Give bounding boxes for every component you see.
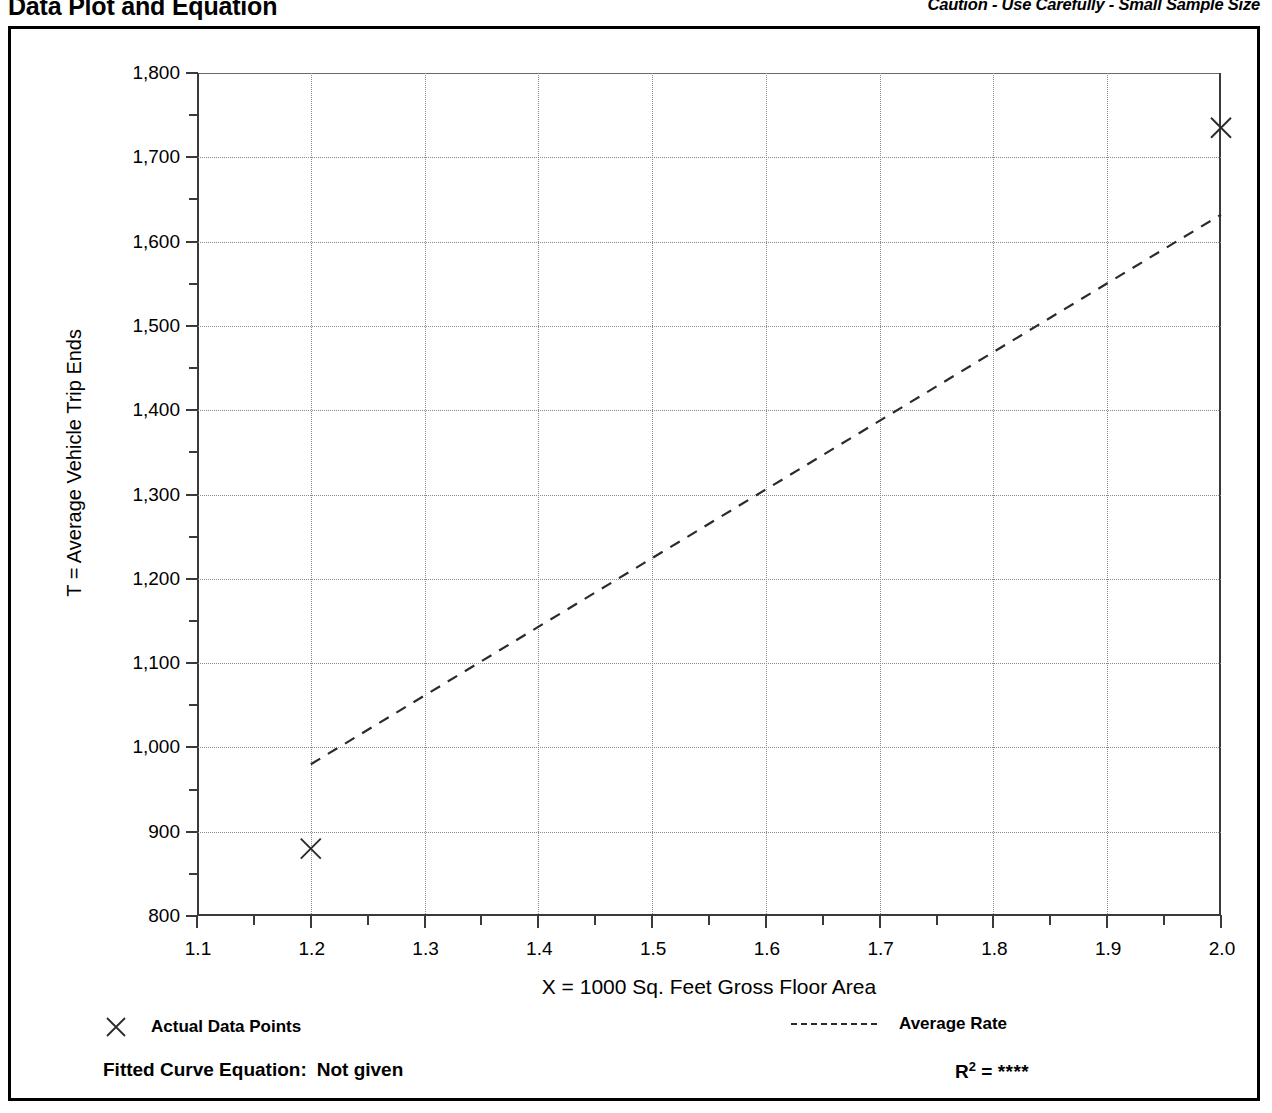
- x-axis-minor-tick: [253, 915, 255, 925]
- x-axis-tick: [992, 915, 994, 928]
- y-axis-tick-label: 1,600: [102, 231, 180, 253]
- y-axis-minor-tick: [189, 114, 198, 116]
- y-axis-tick: [186, 746, 198, 748]
- y-axis-title: T = Average Vehicle Trip Ends: [63, 329, 86, 597]
- y-axis-tick: [186, 156, 198, 158]
- plot-area: 8009001,0001,1001,2001,3001,4001,5001,60…: [197, 73, 1221, 916]
- x-axis-tick-label: 2.0: [1187, 938, 1257, 960]
- x-axis-tick: [310, 915, 312, 928]
- x-axis-minor-tick: [594, 915, 596, 925]
- y-axis-tick: [186, 409, 198, 411]
- gridline-horizontal: [197, 495, 1221, 496]
- x-axis-tick-label: 1.2: [277, 938, 347, 960]
- y-axis-tick: [186, 325, 198, 327]
- x-axis-tick: [651, 915, 653, 928]
- y-axis-tick-label: 800: [102, 905, 180, 927]
- legend-item-average-rate: Average Rate: [791, 1014, 1191, 1034]
- y-axis-tick-label: 1,100: [102, 652, 180, 674]
- legend-label-average-rate: Average Rate: [899, 1014, 1007, 1034]
- x-axis-tick-label: 1.6: [732, 938, 802, 960]
- y-axis-tick: [186, 241, 198, 243]
- y-axis-tick: [186, 72, 198, 74]
- y-axis-minor-tick: [189, 873, 198, 875]
- gridline-horizontal: [197, 410, 1221, 411]
- y-axis-minor-tick: [189, 789, 198, 791]
- gridline-vertical: [1107, 73, 1108, 916]
- gridline-vertical: [652, 73, 653, 916]
- gridline-vertical: [311, 73, 312, 916]
- x-axis-tick: [765, 915, 767, 928]
- x-axis-tick-label: 1.4: [504, 938, 574, 960]
- y-axis-minor-tick: [189, 704, 198, 706]
- y-axis-minor-tick: [189, 283, 198, 285]
- x-axis-tick-label: 1.3: [391, 938, 461, 960]
- page-title: Data Plot and Equation: [8, 0, 277, 21]
- x-axis-minor-tick: [822, 915, 824, 925]
- y-axis-tick-label: 1,700: [102, 146, 180, 168]
- x-axis-tick: [424, 915, 426, 928]
- x-axis-tick: [537, 915, 539, 928]
- y-axis-minor-tick: [189, 620, 198, 622]
- x-axis-minor-tick: [480, 915, 482, 925]
- gridline-vertical: [880, 73, 881, 916]
- gridline-horizontal: [197, 326, 1221, 327]
- x-axis-tick-label: 1.7: [846, 938, 916, 960]
- gridline-horizontal: [197, 832, 1221, 833]
- y-axis-minor-tick: [189, 367, 198, 369]
- equation-row: Fitted Curve Equation:Not given R2 = ***…: [11, 1059, 1257, 1101]
- gridline-vertical: [993, 73, 994, 916]
- r-squared-label: R: [955, 1061, 969, 1082]
- y-axis-tick-label: 1,800: [102, 62, 180, 84]
- y-axis-tick-label: 1,000: [102, 736, 180, 758]
- x-axis-tick: [879, 915, 881, 928]
- y-axis-minor-tick: [189, 536, 198, 538]
- x-axis-tick-label: 1.9: [1073, 938, 1143, 960]
- y-axis-tick: [186, 662, 198, 664]
- y-axis-minor-tick: [189, 451, 198, 453]
- gridline-vertical: [766, 73, 767, 916]
- y-axis-tick: [186, 578, 198, 580]
- data-point-marker: [1211, 118, 1231, 138]
- gridline-horizontal: [197, 663, 1221, 664]
- gridline-horizontal: [197, 157, 1221, 158]
- chart-legend: Actual Data Points Average Rate: [11, 1014, 1257, 1060]
- y-axis-tick-label: 1,400: [102, 399, 180, 421]
- y-axis-minor-tick: [189, 198, 198, 200]
- x-axis-tick: [196, 915, 198, 928]
- x-axis-tick-label: 1.1: [163, 938, 233, 960]
- plot-top-border: [197, 73, 1221, 74]
- x-axis-title: X = 1000 Sq. Feet Gross Floor Area: [197, 975, 1221, 999]
- y-axis-tick-label: 900: [102, 821, 180, 843]
- fitted-equation-value: Not given: [317, 1059, 404, 1080]
- dashed-line-icon: [791, 1023, 877, 1025]
- gridline-vertical: [425, 73, 426, 916]
- y-axis-tick: [186, 494, 198, 496]
- gridline-vertical: [538, 73, 539, 916]
- r-squared-equals: =: [981, 1061, 992, 1082]
- chart-frame: T = Average Vehicle Trip Ends 8009001,00…: [8, 26, 1260, 1101]
- y-axis-tick-label: 1,200: [102, 568, 180, 590]
- r-squared: R2 = ****: [955, 1059, 1029, 1083]
- x-axis-tick-label: 1.8: [959, 938, 1029, 960]
- r-squared-value: ****: [998, 1061, 1030, 1082]
- chart-page: Data Plot and Equation Caution - Use Car…: [0, 0, 1272, 1113]
- gridline-horizontal: [197, 242, 1221, 243]
- caution-note: Caution - Use Carefully - Small Sample S…: [928, 0, 1261, 14]
- r-squared-exponent: 2: [969, 1059, 976, 1074]
- gridline-horizontal: [197, 579, 1221, 580]
- x-axis-tick: [1106, 915, 1108, 928]
- y-axis-tick: [186, 831, 198, 833]
- x-axis-tick: [1220, 915, 1222, 928]
- y-axis-tick-label: 1,300: [102, 484, 180, 506]
- gridline-horizontal: [197, 747, 1221, 748]
- fitted-equation-label: Fitted Curve Equation:: [103, 1059, 307, 1080]
- x-axis-tick-label: 1.5: [618, 938, 688, 960]
- x-axis-minor-tick: [708, 915, 710, 925]
- x-axis-minor-tick: [367, 915, 369, 925]
- plot-wrapper: T = Average Vehicle Trip Ends 8009001,00…: [11, 29, 1257, 1098]
- x-axis-minor-tick: [1163, 915, 1165, 925]
- page-header: Data Plot and Equation Caution - Use Car…: [0, 0, 1272, 26]
- legend-item-actual-data-points: Actual Data Points: [103, 1014, 301, 1040]
- legend-label-actual-data-points: Actual Data Points: [151, 1017, 301, 1037]
- x-marker-icon: [103, 1014, 129, 1040]
